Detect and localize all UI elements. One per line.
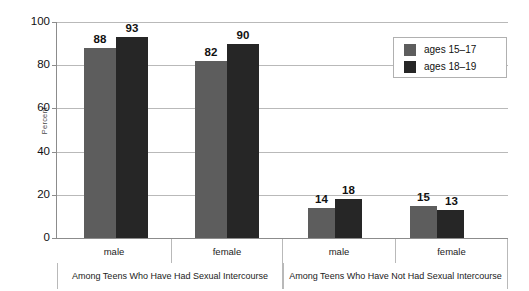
group-band-had-intercourse: Among Teens Who Have Had Sexual Intercou… (57, 263, 283, 289)
legend-swatch-icon-ages-15-17 (404, 44, 416, 56)
category-band-g0-male: male (57, 239, 172, 263)
category-label-g1-male: male (283, 246, 395, 257)
bar-chart: Percent 100 80 60 40 20 0 88 (0, 0, 529, 291)
y-tick-label-40: 40 (22, 146, 50, 158)
bar-g0-female-ages-18-19[interactable] (227, 44, 259, 238)
y-tick-label-0: 0 (22, 232, 50, 244)
y-tick-label-100: 100 (22, 16, 50, 28)
category-band-g1-male: male (283, 239, 396, 263)
legend: ages 15–17 ages 18–19 (393, 37, 507, 78)
category-label-g1-female: female (396, 246, 507, 257)
bar-value-g0-female-ages-18-19: 90 (227, 30, 259, 42)
y-tick-label-80: 80 (22, 59, 50, 71)
bar-g0-female-ages-15-17[interactable] (195, 61, 227, 238)
y-tick-label-60: 60 (22, 102, 50, 114)
bar-value-g0-female-ages-15-17: 82 (195, 47, 227, 59)
category-label-g0-male: male (57, 246, 171, 257)
bar-value-g1-male-ages-18-19: 18 (335, 185, 362, 197)
bar-g1-male-ages-15-17[interactable] (308, 208, 335, 238)
group-label-had-intercourse: Among Teens Who Have Had Sexual Intercou… (58, 271, 282, 281)
bar-g0-male-ages-15-17[interactable] (84, 48, 116, 238)
bar-value-g0-male-ages-18-19: 93 (116, 23, 148, 35)
bar-g0-male-ages-18-19[interactable] (116, 37, 148, 238)
y-axis-tick-labels: 100 80 60 40 20 0 (22, 0, 50, 291)
bar-value-g1-male-ages-15-17: 14 (306, 194, 337, 206)
legend-label-ages-18-19: ages 18–19 (424, 61, 476, 73)
bar-value-g1-female-ages-15-17: 15 (409, 192, 438, 204)
bar-g1-male-ages-18-19[interactable] (335, 199, 362, 238)
bar-g1-female-ages-15-17[interactable] (410, 206, 437, 238)
bar-value-g0-male-ages-15-17: 88 (84, 34, 116, 46)
bar-value-g1-female-ages-18-19: 13 (438, 196, 465, 208)
group-label-not-had-intercourse: Among Teens Who Have Not Had Sexual Inte… (284, 271, 507, 281)
legend-swatch-icon-ages-18-19 (404, 61, 416, 73)
legend-label-ages-15-17: ages 15–17 (424, 44, 476, 56)
category-band-g1-female: female (396, 239, 508, 263)
group-band-not-had-intercourse: Among Teens Who Have Not Had Sexual Inte… (283, 263, 508, 289)
category-band-g0-female: female (172, 239, 283, 263)
category-label-g0-female: female (172, 246, 282, 257)
bar-g1-female-ages-18-19[interactable] (437, 210, 464, 238)
y-tick-label-20: 20 (22, 189, 50, 201)
